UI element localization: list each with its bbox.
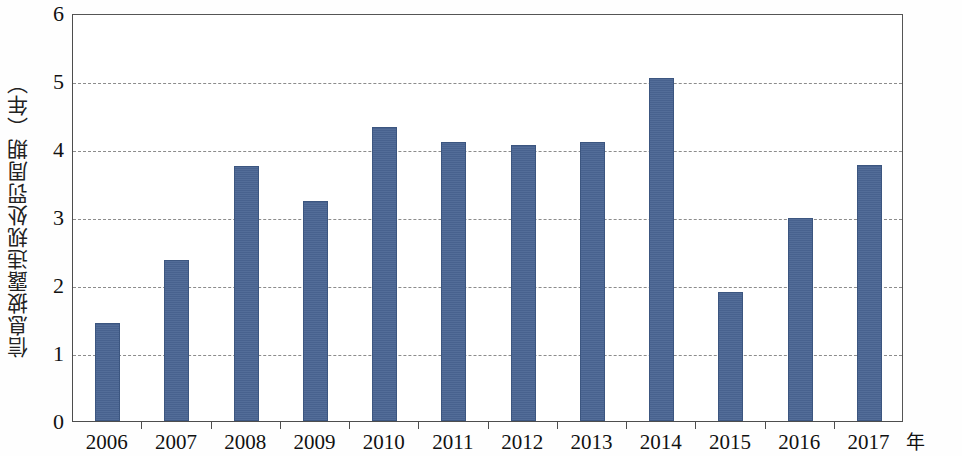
x-tick-label: 2010 [363,430,405,454]
x-tick-label: 2006 [86,430,128,454]
y-tick-label: 4 [38,139,64,161]
y-axis-title-label: 信息披露违规处罚周期（年） [9,72,30,358]
y-tick-label: 1 [38,343,64,365]
x-axis-tick [488,422,489,429]
gridline [73,287,902,288]
bar [95,323,120,421]
bar [788,218,813,421]
bar-chart: 信息披露违规处罚周期（年） 0123456 年 2006200720082009… [0,0,962,456]
bar [372,127,397,421]
x-tick-label: 2008 [224,430,266,454]
x-axis-tick [557,422,558,429]
y-tick-label: 6 [38,3,64,25]
x-axis-tick [765,422,766,429]
x-axis-tick [695,422,696,429]
x-tick-label: 2009 [293,430,335,454]
x-axis-tick [418,422,419,429]
x-tick-label: 2014 [640,430,682,454]
bar [718,292,743,421]
bar [580,142,605,421]
x-tick-label: 2017 [847,430,889,454]
x-axis-tick [141,422,142,429]
y-tick-label: 0 [38,411,64,433]
bar [303,201,328,421]
x-tick-label: 2013 [570,430,612,454]
bar [649,78,674,421]
y-tick-label: 2 [38,275,64,297]
x-axis-tick [834,422,835,429]
y-axis-tick-labels: 0123456 [36,0,64,456]
y-tick-label: 5 [38,71,64,93]
x-axis-tick-labels: 年 20062007200820092010201120122013201420… [72,430,962,456]
bar [511,145,536,421]
bar [857,165,882,421]
x-axis-unit-label: 年 [906,430,925,455]
bar [164,260,189,421]
gridline [73,219,902,220]
x-tick-label: 2016 [778,430,820,454]
x-axis-tick [280,422,281,429]
gridline [73,355,902,356]
bar [234,166,259,421]
y-axis-title: 信息披露违规处罚周期（年） [2,0,36,430]
x-tick-label: 2012 [501,430,543,454]
x-tick-label: 2011 [432,430,473,454]
x-tick-label: 2015 [709,430,751,454]
x-axis-tick [349,422,350,429]
bar [441,142,466,421]
x-tick-label: 2007 [155,430,197,454]
x-axis-ticks [72,422,903,430]
plot-area [72,14,903,422]
x-axis-tick [211,422,212,429]
gridline [73,151,902,152]
gridline [73,83,902,84]
y-tick-label: 3 [38,207,64,229]
x-axis-tick [626,422,627,429]
